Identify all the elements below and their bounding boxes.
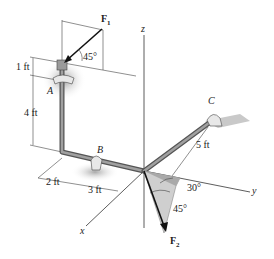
pipe-diagram bbox=[0, 0, 274, 259]
force-f1-angle: 45° bbox=[83, 52, 97, 62]
dim-1ft: 1 ft bbox=[16, 62, 30, 72]
dim-3ft: 3 ft bbox=[88, 185, 102, 195]
dim-2ft: 2 ft bbox=[46, 177, 60, 187]
support-c-bracket bbox=[207, 114, 222, 126]
force-f2-angle-30: 30° bbox=[187, 183, 201, 193]
force-f1-label: F1 bbox=[101, 14, 111, 27]
force-f2-label: F2 bbox=[170, 236, 180, 249]
y-axis-label: y bbox=[252, 186, 256, 196]
point-b-label: B bbox=[97, 145, 103, 155]
x-axis-label: x bbox=[80, 226, 84, 236]
support-b-bracket bbox=[91, 156, 102, 170]
force-f2-angle-45: 45° bbox=[173, 204, 187, 214]
point-a-label: A bbox=[47, 86, 53, 96]
point-c-label: C bbox=[208, 96, 215, 106]
dim-5ft: 5 ft bbox=[196, 140, 210, 150]
dim-4ft: 4 ft bbox=[24, 108, 38, 118]
z-axis-label: z bbox=[141, 24, 145, 34]
